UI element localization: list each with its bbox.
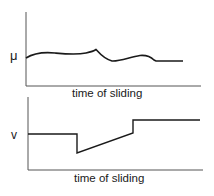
velocity-curve xyxy=(28,120,200,153)
top-x-axis-label: time of sliding xyxy=(72,87,142,99)
v-axis-label: v xyxy=(11,128,17,142)
friction-curve xyxy=(26,50,183,62)
bottom-x-axis-label: time of sliding xyxy=(74,172,144,184)
mu-axis-label: μ xyxy=(10,48,18,63)
top-plot-axes xyxy=(26,12,201,86)
